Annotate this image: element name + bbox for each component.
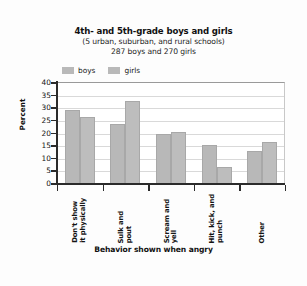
x-category-label-line: it physically xyxy=(80,198,87,243)
x-category-label-line: yell xyxy=(171,230,178,243)
bar-group xyxy=(148,82,194,183)
x-tick-mark xyxy=(57,185,58,191)
y-tick-label: 40 xyxy=(29,78,51,87)
bar-group xyxy=(57,82,103,183)
bar-girls xyxy=(171,132,186,183)
bar-boys xyxy=(202,145,217,183)
x-tick-mark xyxy=(103,185,104,191)
x-tick-mark xyxy=(285,185,286,191)
x-tick-mark xyxy=(239,185,240,191)
x-category-label: Hit, kick, andpunch xyxy=(194,191,240,243)
legend-entry-boys: boys xyxy=(62,66,95,75)
bar-chart-figure: 4th- and 5th-grade boys and girls (5 urb… xyxy=(0,0,307,286)
bar-group xyxy=(194,82,240,183)
bar-girls xyxy=(217,167,232,183)
y-tick-mark xyxy=(51,145,57,147)
y-axis-tick-labels: 0510152025303540 xyxy=(26,82,51,183)
x-category-label: Sulk andpout xyxy=(103,191,149,243)
legend-entry-girls: girls xyxy=(108,66,140,75)
bar-girls xyxy=(125,101,140,183)
x-category-label-line: Other xyxy=(259,222,266,243)
y-tick-label: 25 xyxy=(29,115,51,124)
bars-layer xyxy=(57,82,285,183)
x-category-label-line: Sulk and xyxy=(118,211,125,244)
x-tick-mark xyxy=(148,185,149,191)
x-axis-category-labels: Don't showit physicallySulk andpoutScrea… xyxy=(57,191,285,243)
y-tick-mark xyxy=(51,158,57,160)
y-tick-mark xyxy=(51,170,57,172)
bar-group xyxy=(103,82,149,183)
bar-boys xyxy=(110,124,125,183)
x-category-label-line: punch xyxy=(217,220,224,243)
legend-label: boys xyxy=(78,66,95,75)
y-tick-mark xyxy=(51,82,57,84)
bar-group xyxy=(239,82,285,183)
y-tick-label: 35 xyxy=(29,90,51,99)
page-title: 4th- and 5th-grade boys and girls xyxy=(0,26,307,37)
y-tick-label: 30 xyxy=(29,103,51,112)
chart-subtitle-counts: 287 boys and 270 girls xyxy=(0,47,307,57)
y-tick-label: 0 xyxy=(29,179,51,188)
legend-label: girls xyxy=(124,66,140,75)
bar-boys xyxy=(156,134,171,183)
bar-girls xyxy=(80,117,95,183)
y-tick-label: 10 xyxy=(29,153,51,162)
x-category-label: Scream andyell xyxy=(148,191,194,243)
y-tick-label: 15 xyxy=(29,141,51,150)
y-tick-mark xyxy=(51,120,57,122)
bar-boys xyxy=(65,110,80,183)
title-block: 4th- and 5th-grade boys and girls (5 urb… xyxy=(0,26,307,56)
x-tick-mark xyxy=(194,185,195,191)
y-axis-title: Percent xyxy=(18,90,27,140)
y-tick-mark xyxy=(51,95,57,97)
x-axis-title: Behavior shown when angry xyxy=(0,245,307,254)
x-axis-spine xyxy=(56,183,285,185)
legend-swatch-icon xyxy=(62,67,74,74)
y-tick-mark xyxy=(51,133,57,135)
legend-swatch-icon xyxy=(108,67,120,74)
y-tick-label: 5 xyxy=(29,166,51,175)
bar-girls xyxy=(262,142,277,183)
chart-legend: boysgirls xyxy=(62,66,140,75)
x-category-label: Other xyxy=(239,191,285,243)
bar-boys xyxy=(247,151,262,183)
y-tick-label: 20 xyxy=(29,128,51,137)
x-category-label: Don't showit physically xyxy=(57,191,103,243)
x-category-label-line: pout xyxy=(126,226,133,243)
y-tick-mark xyxy=(51,107,57,109)
chart-subtitle: (5 urban, suburban, and rural schools) xyxy=(0,37,307,47)
